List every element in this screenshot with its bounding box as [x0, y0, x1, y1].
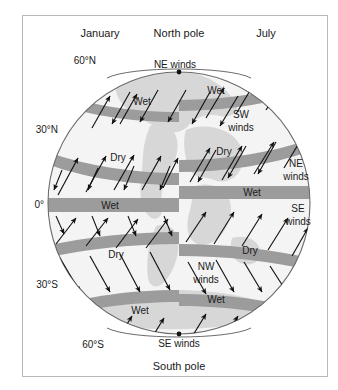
label-nw-winds-line1: NW [198, 261, 215, 272]
label-jan-dry-30s: Dry [108, 249, 124, 260]
label-jan-wet-60n: Wet [133, 96, 151, 107]
figure-root: January North pole July South pole 60°N … [0, 0, 338, 390]
label-july: July [256, 27, 276, 39]
label-jul-dry-30n: Dry [216, 146, 232, 157]
label-lat-60n: 60°N [74, 55, 96, 66]
label-north-pole: North pole [154, 27, 205, 39]
label-se-winds-bottom: SE winds [158, 338, 200, 349]
label-lat-0: 0° [34, 199, 44, 210]
label-jan-dry-30n: Dry [110, 152, 126, 163]
label-south-pole: South pole [153, 360, 206, 372]
label-jul-dry-30s: Dry [242, 245, 258, 256]
label-nw-winds-line2: winds [192, 274, 219, 285]
wind-belt-diagram: January North pole July South pole 60°N … [0, 0, 338, 390]
label-ne-winds-top: NE winds [154, 59, 196, 70]
label-lat-30n: 30°N [36, 124, 58, 135]
globe [40, 69, 318, 337]
label-jan-wet-eq: Wet [101, 200, 119, 211]
label-lat-30s: 30°S [36, 279, 58, 290]
label-ne-winds-right-line2: winds [282, 171, 309, 182]
label-se-winds-right-line1: SE [291, 203, 305, 214]
label-january: January [80, 27, 120, 39]
label-jul-wet-60s: Wet [207, 294, 225, 305]
label-ne-winds-right-line1: NE [289, 158, 303, 169]
label-sw-winds-line2: winds [227, 122, 254, 133]
north-pole-dot [177, 70, 182, 75]
label-sw-winds-line1: SW [233, 109, 250, 120]
label-se-winds-right-line2: winds [284, 216, 311, 227]
south-pole-dot [177, 332, 182, 337]
label-jul-wet-60n: Wet [207, 85, 225, 96]
label-jul-wet-eq: Wet [243, 187, 261, 198]
label-lat-60s: 60°S [82, 339, 104, 350]
label-jan-wet-60s: Wet [131, 305, 149, 316]
